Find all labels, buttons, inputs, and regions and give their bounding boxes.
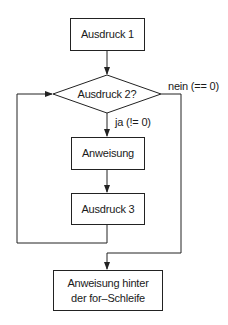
after-loop-label-line1: Anweisung hinter — [67, 277, 148, 290]
expr1-label: Ausdruck 1 — [81, 28, 134, 41]
after-loop-box: Anweisung hinter der for–Schleife — [53, 270, 163, 311]
yes-branch-label: ja (!= 0) — [115, 116, 165, 129]
condition-label: Ausdruck 2? — [72, 88, 142, 101]
expr3-box: Ausdruck 3 — [71, 193, 145, 225]
no-branch-label: nein (== 0) — [168, 80, 224, 93]
expr3-label: Ausdruck 3 — [81, 203, 134, 216]
statement-label: Anweisung — [82, 147, 134, 160]
after-loop-label-line2: der for–Schleife — [71, 292, 145, 305]
expr1-box: Ausdruck 1 — [70, 18, 145, 51]
statement-box: Anweisung — [71, 137, 145, 170]
